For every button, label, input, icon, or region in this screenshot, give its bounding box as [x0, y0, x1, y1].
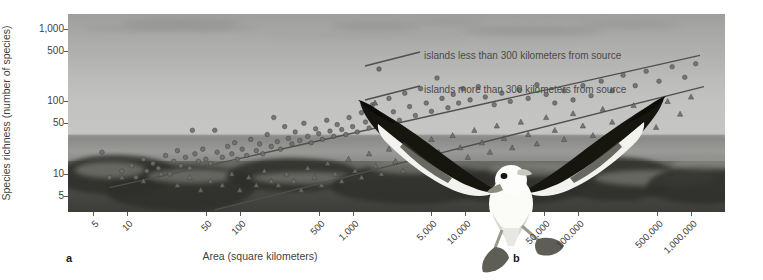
y-tick-label: 500 [20, 46, 64, 56]
x-tick-label-text: 500 [307, 218, 326, 237]
y-tick-label: 1,000 [20, 24, 64, 34]
rock-highlight [147, 169, 237, 183]
y-tick-label: 100 [20, 96, 64, 106]
x-axis-label: Area (square kilometers) [120, 250, 400, 262]
y-tick-label: 10 [20, 169, 64, 179]
x-tick-label-text: 5,000 [415, 218, 440, 243]
x-tick-label-text: 1,000 [336, 218, 361, 243]
x-tick-mark [319, 212, 320, 216]
x-tick-label-text: 5 [89, 218, 101, 230]
x-tick-label: 50 [206, 211, 221, 226]
x-tick-label: 5 [93, 214, 105, 226]
species-area-figure: Species richness (number of species) 510… [0, 0, 763, 280]
y-tick-mark [64, 196, 68, 197]
panel-letter-a: a [66, 252, 72, 264]
cloud-shape [580, 21, 680, 28]
y-tick-mark [64, 123, 68, 124]
y-tick-mark [64, 51, 68, 52]
head-shading [517, 169, 532, 175]
y-tick-label: 50 [20, 118, 64, 128]
y-tick-mark [64, 29, 68, 30]
cloud-shape [81, 25, 261, 32]
legend-label-near: islands less than 300 kilometers from so… [424, 50, 621, 61]
x-tick-label-text: 100,000 [554, 218, 586, 250]
cloud-shape [462, 26, 602, 36]
cloud-shape [265, 33, 465, 38]
x-tick-label-text: 50 [198, 218, 213, 233]
cloud-shape [331, 22, 421, 30]
x-tick-mark [353, 212, 354, 216]
cloud-shape [416, 19, 486, 25]
y-tick-label: 5 [20, 191, 64, 201]
x-tick-label-text: 10,000 [445, 218, 473, 246]
x-tick-label-text: 50,000 [524, 218, 552, 246]
x-tick-label-text: 500,000 [633, 218, 665, 250]
x-tick-label: 10 [127, 211, 142, 226]
x-tick-label-text: 100 [229, 218, 248, 237]
y-tick-mark [64, 174, 68, 175]
y-tick-mark [64, 101, 68, 102]
rock-highlight [75, 162, 145, 178]
legend-label-far: islands more than 300 kilometers from so… [424, 84, 626, 95]
panel-letter-b: b [513, 252, 520, 264]
y-axis-tick-labels: 510501005001,000 [18, 14, 64, 212]
x-tick-label-text: 10 [120, 218, 135, 233]
bird-eye [501, 173, 508, 179]
